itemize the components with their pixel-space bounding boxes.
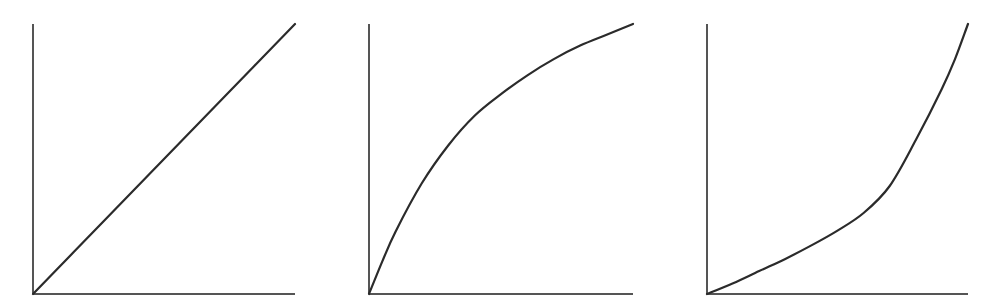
plot-convex: [707, 24, 968, 294]
chart-canvas: [0, 0, 994, 307]
data-line: [707, 24, 968, 294]
plot-concave: [369, 24, 633, 294]
data-line: [369, 24, 633, 294]
plot-linear: [33, 24, 295, 294]
data-line: [33, 24, 295, 294]
